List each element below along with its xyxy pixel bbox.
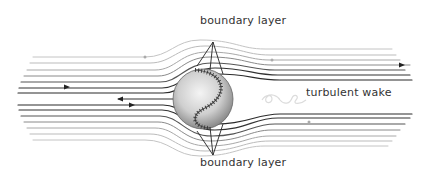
turbulent-wake-squiggle [262, 95, 306, 103]
arrow-right-icon [399, 63, 405, 68]
baseball [173, 69, 233, 129]
arrow-left-icon [117, 97, 123, 102]
arrow-right-icon [129, 103, 135, 108]
arrow-right-icon [64, 85, 70, 90]
dot-marker [271, 59, 274, 62]
dot-marker [308, 121, 311, 124]
dot-marker [144, 56, 147, 59]
label-turbulent-wake: turbulent wake [306, 86, 392, 99]
label-boundary-layer-top: boundary layer [200, 14, 286, 27]
label-boundary-layer-bottom: boundary layer [200, 156, 286, 169]
